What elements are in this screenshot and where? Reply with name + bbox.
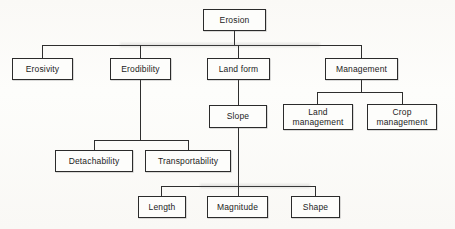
node-length[interactable]: Length bbox=[138, 196, 186, 218]
node-shape[interactable]: Shape bbox=[291, 196, 340, 218]
edge-drop-detachability bbox=[94, 140, 95, 150]
node-erosivity[interactable]: Erosivity bbox=[12, 58, 73, 80]
node-erosion[interactable]: Erosion bbox=[203, 9, 266, 31]
edge-drop-land-management bbox=[317, 92, 318, 104]
edge-slope-stem bbox=[238, 128, 239, 186]
edge-erodibility-bus bbox=[94, 140, 189, 141]
edge-drop-shape bbox=[315, 186, 316, 196]
edge-drop-landform bbox=[238, 45, 239, 58]
node-transportability[interactable]: Transportability bbox=[145, 150, 231, 172]
node-erodibility[interactable]: Erodibility bbox=[110, 58, 171, 80]
edge-erodibility-stem bbox=[140, 80, 141, 140]
edge-drop-erodibility bbox=[140, 45, 141, 58]
node-magnitude[interactable]: Magnitude bbox=[207, 196, 268, 218]
node-detachability[interactable]: Detachability bbox=[55, 150, 133, 172]
node-crop-management[interactable]: Crop management bbox=[367, 104, 437, 130]
edge-management-bus bbox=[317, 92, 403, 93]
node-land-management[interactable]: Land management bbox=[283, 104, 353, 130]
node-management[interactable]: Management bbox=[325, 58, 398, 80]
edge-drop-length bbox=[161, 186, 162, 196]
node-slope[interactable]: Slope bbox=[209, 105, 267, 128]
edge-landform-to-slope bbox=[238, 80, 239, 105]
erosion-hierarchy-diagram: Erosion Erosivity Erodibility Land form … bbox=[0, 0, 455, 229]
edge-erosion-stem bbox=[234, 31, 235, 46]
edge-drop-management bbox=[361, 45, 362, 58]
edge-drop-crop-management bbox=[402, 92, 403, 104]
edge-drop-transportability bbox=[188, 140, 189, 150]
edge-level1-bus bbox=[42, 45, 362, 46]
edge-management-stem bbox=[361, 80, 362, 92]
edge-drop-erosivity bbox=[42, 45, 43, 58]
edge-drop-magnitude bbox=[238, 186, 239, 196]
node-land-form[interactable]: Land form bbox=[207, 58, 270, 80]
